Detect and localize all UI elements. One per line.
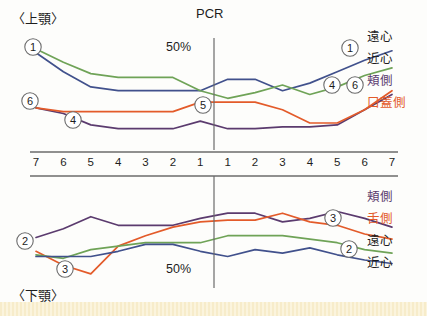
tooth-number-right-6: 6 (57, 156, 69, 168)
tooth-number-right-2: 2 (167, 156, 179, 168)
lower-50-percent-label: 50% (166, 262, 191, 276)
svg-text:1: 1 (30, 41, 36, 53)
svg-text:6: 6 (352, 79, 358, 91)
tooth-number-left-2: 2 (249, 156, 261, 168)
svg-text:1: 1 (347, 42, 353, 54)
tooth-number-right-3: 3 (140, 156, 152, 168)
upper-50-percent-label: 50% (166, 40, 191, 54)
visit-marker-lower-2: 2 (17, 233, 33, 249)
tooth-number-right-1: 1 (194, 156, 206, 168)
svg-text:4: 4 (70, 114, 76, 126)
visit-marker-upper-1: 1 (25, 39, 41, 55)
tooth-number-left-7: 7 (386, 156, 398, 168)
svg-text:6: 6 (27, 95, 33, 107)
legend-entry-lower-遠心: 遠心 (367, 234, 393, 247)
svg-text:3: 3 (330, 212, 336, 224)
svg-text:3: 3 (62, 263, 68, 275)
visit-marker-lower-3: 3 (57, 261, 73, 277)
decorative-bottom-band (0, 302, 427, 316)
visit-marker-upper-6: 6 (22, 93, 38, 109)
visit-marker-upper-5: 5 (195, 97, 211, 113)
visit-marker-upper-1: 1 (342, 40, 358, 56)
visit-marker-upper-6: 6 (347, 77, 363, 93)
tooth-number-left-5: 5 (331, 156, 343, 168)
legend-entry-lower-頬側: 頬側 (367, 190, 393, 203)
tooth-number-right-5: 5 (85, 156, 97, 168)
svg-text:2: 2 (346, 243, 352, 255)
svg-text:4: 4 (329, 79, 335, 91)
tooth-number-left-4: 4 (304, 156, 316, 168)
legend-entry-upper-近心: 近心 (367, 52, 393, 65)
tooth-number-left-3: 3 (276, 156, 288, 168)
legend-entry-lower-近心: 近心 (367, 256, 393, 269)
tooth-number-left-6: 6 (359, 156, 371, 168)
svg-text:2: 2 (22, 235, 28, 247)
tooth-number-left-1: 1 (222, 156, 234, 168)
pcr-title: PCR (196, 6, 223, 21)
legend-entry-lower-舌側: 舌側 (367, 212, 393, 225)
visit-marker-upper-4: 4 (65, 112, 81, 128)
upper-jaw-label: 〈上顎〉 (12, 8, 64, 27)
tooth-number-right-7: 7 (30, 156, 42, 168)
visit-marker-upper-4: 4 (324, 77, 340, 93)
legend-entry-upper-頬側: 頬側 (367, 74, 393, 87)
legend-entry-upper-口蓋側: 口蓋側 (367, 96, 406, 109)
svg-text:5: 5 (200, 99, 206, 111)
visit-marker-lower-3: 3 (325, 210, 341, 226)
pcr-chart-figure: 16451462332 〈上顎〉 〈下顎〉 PCR 50% 50% 765432… (0, 0, 427, 316)
legend-entry-upper-遠心: 遠心 (367, 30, 393, 43)
tooth-number-right-4: 4 (112, 156, 124, 168)
visit-marker-lower-2: 2 (341, 241, 357, 257)
